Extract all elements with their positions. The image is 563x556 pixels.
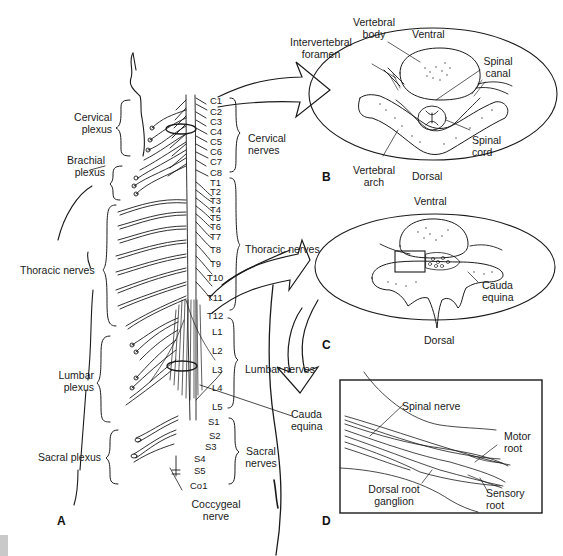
segment-t9: T9 xyxy=(210,259,221,269)
label-vertebral-arch: Vertebral arch xyxy=(350,164,398,188)
peripheral-nerves xyxy=(116,110,186,476)
label-brachial-plexus: Brachial plexus xyxy=(55,154,105,178)
segment-co1: Co1 xyxy=(190,481,207,491)
segment-s4: S4 xyxy=(194,454,206,464)
label-cauda-equina-c: Cauda equina xyxy=(482,279,514,303)
panel-letter-b: B xyxy=(322,170,331,184)
segment-t7: T7 xyxy=(210,232,221,242)
corner-swatch xyxy=(0,535,8,556)
label-ventral-c: Ventral xyxy=(414,195,447,207)
label-spinal-cord: Spinal cord xyxy=(472,134,501,158)
label-spinal-nerve: Spinal nerve xyxy=(402,400,460,412)
callout-arrows xyxy=(210,62,330,393)
segment-s2: S2 xyxy=(209,431,221,441)
segment-l3: L3 xyxy=(212,365,223,375)
segment-t12: T12 xyxy=(207,311,223,321)
segment-s1: S1 xyxy=(208,417,220,427)
label-ventral-b: Ventral xyxy=(412,28,445,40)
segment-l2: L2 xyxy=(212,346,223,356)
label-sacral-plexus: Sacral plexus xyxy=(38,451,101,463)
label-dorsal-c: Dorsal xyxy=(424,334,454,346)
label-dorsal-b: Dorsal xyxy=(412,170,442,182)
segment-l4: L4 xyxy=(212,383,223,393)
panel-letter-a: A xyxy=(57,514,66,528)
label-lumbar-nerves: Lumbar nerves xyxy=(245,363,315,375)
segment-s5: S5 xyxy=(194,466,206,476)
spinal-nerves-figure: Cervical plexus Brachial plexus Thoracic… xyxy=(0,0,563,556)
segment-l5: L5 xyxy=(212,402,223,412)
segment-t8: T8 xyxy=(210,245,221,255)
label-cervical-plexus: Cervical plexus xyxy=(62,111,112,135)
segment-c7: C7 xyxy=(210,157,222,167)
segment-s3: S3 xyxy=(205,442,217,452)
segment-c1: C1 xyxy=(210,96,222,106)
label-spinal-canal: Spinal canal xyxy=(478,55,518,79)
label-lumbar-plexus: Lumbar plexus xyxy=(42,369,94,393)
label-motor-root: Motor root xyxy=(504,430,531,454)
panel-letter-d: D xyxy=(322,514,331,528)
label-intervertebral-foramen: Intervertebral foramen xyxy=(284,36,358,60)
panel-letter-c: C xyxy=(322,338,331,352)
label-coccygeal-nerve: Coccygeal nerve xyxy=(186,498,246,522)
segment-l1: L1 xyxy=(212,327,223,337)
anatomy-line-art xyxy=(0,0,563,556)
segment-t11: T11 xyxy=(207,293,223,303)
label-sensory-root: Sensory root xyxy=(486,487,525,511)
label-thoracic-nerves-left: Thoracic nerves xyxy=(20,264,95,276)
label-sacral-nerves: Sacral nerves xyxy=(238,445,284,469)
panel-c-section xyxy=(315,214,555,328)
label-dorsal-root-ganglion: Dorsal root ganglion xyxy=(362,483,426,507)
label-cauda-equina-a: Cauda equina xyxy=(291,408,323,432)
label-thoracic-nerves-right: Thoracic nerves xyxy=(245,243,320,255)
label-cervical-nerves: Cervical nerves xyxy=(248,132,286,156)
segment-t10: T10 xyxy=(207,273,223,283)
